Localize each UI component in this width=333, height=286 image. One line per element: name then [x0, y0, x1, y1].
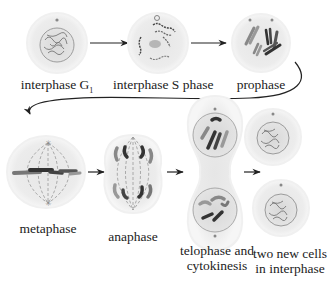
diagram-graphics: ✳ ✳ [0, 0, 333, 286]
label-subscript: 1 [89, 86, 93, 95]
label-line-1: two new cells [250, 246, 330, 261]
centrosome-icon [272, 113, 275, 116]
label-interphase-g1: interphase G1 [0, 77, 114, 98]
label-prophase: prophase [230, 77, 292, 92]
centrosome-icon [280, 184, 283, 187]
label-text: interphase G [21, 77, 90, 92]
centrosome-icon [55, 18, 58, 21]
cell-interphase-s [128, 13, 188, 73]
centrosome-icon [214, 108, 217, 111]
centrosome-icon [249, 19, 252, 22]
label-line-1: telophase and [180, 243, 254, 258]
svg-text:✳: ✳ [45, 139, 52, 148]
label-line-2: cytokinesis [180, 258, 254, 273]
cell-metaphase: ✳ ✳ [7, 136, 85, 208]
centrosome-icon [214, 235, 217, 238]
label-daughter-cells: two new cells in interphase [250, 246, 330, 276]
cell-interphase-g1 [27, 13, 87, 73]
cell-daughter-bottom [253, 180, 309, 236]
cell-prophase [232, 14, 290, 72]
label-metaphase: metaphase [15, 221, 81, 236]
label-anaphase: anaphase [103, 229, 163, 244]
svg-text:✳: ✳ [45, 199, 52, 208]
cell-daughter-top [245, 109, 301, 165]
label-telophase: telophase and cytokinesis [180, 243, 254, 273]
label-line-2: in interphase [250, 261, 330, 276]
centrosome-icon [271, 19, 274, 22]
cell-anaphase [104, 135, 161, 213]
mitosis-diagram: ✳ ✳ [0, 0, 333, 286]
label-interphase-s: interphase S phase [113, 77, 209, 92]
cell-telophase [188, 96, 242, 250]
